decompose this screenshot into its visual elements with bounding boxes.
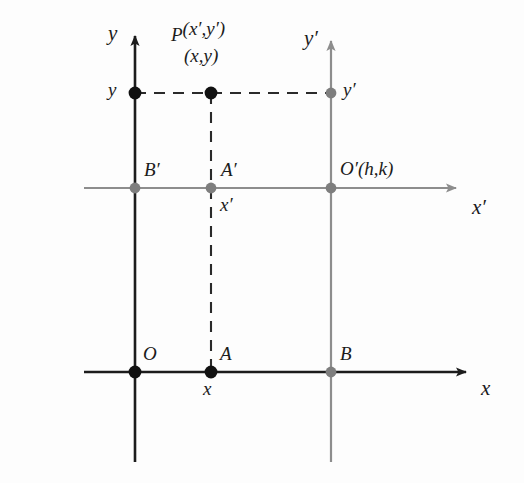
point-y-marker: [129, 87, 142, 100]
point-B-prime-marker: [130, 183, 141, 194]
point-A-prime-marker: [206, 183, 217, 194]
y-prime-axis-label: y′: [304, 27, 318, 49]
point-P-name: P: [171, 24, 183, 45]
point-P-marker: [205, 87, 218, 100]
point-A-label: A: [220, 344, 232, 364]
point-P-label-group: P(x′,y′) (x,y): [171, 24, 225, 67]
point-y-prime-marker: [326, 88, 337, 99]
tick-label-x-prime: x′: [220, 195, 233, 215]
point-O-label: O: [143, 344, 157, 364]
diagram-canvas: [0, 0, 524, 483]
point-B-marker: [326, 367, 337, 378]
point-O-prime-marker: [326, 183, 337, 194]
point-B-label: B: [340, 344, 352, 364]
x-prime-axis-label: x′: [472, 196, 486, 218]
point-O-prime-label: O′(h,k): [340, 159, 393, 179]
tick-label-y: y: [108, 80, 116, 100]
point-O-marker: [129, 366, 142, 379]
tick-label-x: x: [203, 379, 211, 399]
point-P-coords-plain: (x,y): [171, 45, 225, 66]
point-B-prime-label: B′: [144, 160, 160, 180]
x-axis-label: x: [481, 377, 490, 399]
translation-of-axes-figure: y y′ x x′ P(x′,y′) (x,y) y y′ B′ A′ x′ O…: [0, 0, 524, 483]
point-A-prime-label: A′: [221, 160, 237, 180]
tick-label-y-prime: y′: [343, 80, 356, 100]
point-P-coords-primed: (x′,y′): [183, 18, 226, 39]
y-axis-label: y: [108, 22, 117, 44]
point-A-marker: [205, 366, 218, 379]
